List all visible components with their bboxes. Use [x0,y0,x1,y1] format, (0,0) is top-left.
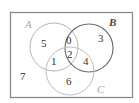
set-label-a: A [24,18,32,30]
region-a-and-c: 1 [51,55,57,67]
venn-diagram: A B C 5 3 6 0 1 4 2 7 [0,0,139,103]
region-a-only: 5 [41,37,47,49]
region-b-only: 3 [98,32,104,44]
region-b-and-c: 4 [83,55,89,67]
set-label-b: B [108,16,116,28]
region-a-b-c: 2 [67,48,73,60]
region-c-only: 6 [66,75,72,87]
region-a-and-b: 0 [66,34,72,46]
region-outside: 7 [20,70,26,82]
set-label-c: C [97,83,105,95]
